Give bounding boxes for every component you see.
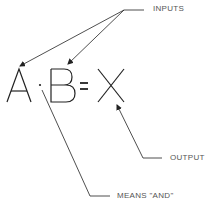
letter-x: [98, 69, 124, 102]
equals-sign: [80, 83, 88, 89]
and-gate-diagram: [0, 0, 212, 206]
inputs-leader-lines: [20, 10, 144, 66]
inputs-label: INPUTS: [153, 4, 184, 13]
and-dot: [39, 84, 41, 86]
means-and-label: MEANS "AND": [117, 191, 174, 200]
output-label: OUTPUT: [170, 153, 205, 162]
output-leader-line: [117, 105, 162, 158]
letter-b: [51, 69, 75, 102]
means-and-leader-line: [42, 90, 110, 196]
letter-a: [7, 69, 31, 102]
